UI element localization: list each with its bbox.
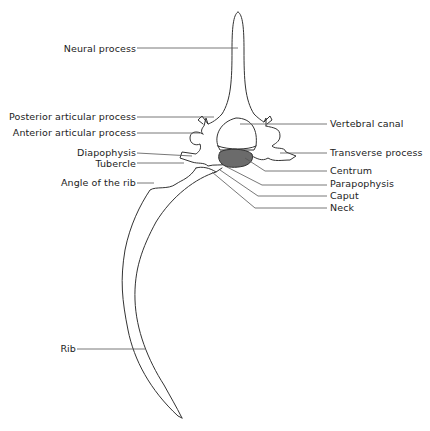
label-posterior-articular-process: Posterior articular process: [9, 111, 136, 122]
label-transverse-process: Transverse process: [330, 147, 423, 158]
label-angle-of-the-rib: Angle of the rib: [61, 177, 136, 188]
rib-outer-shape: [122, 168, 196, 418]
label-anterior-articular-process: Anterior articular process: [13, 127, 136, 138]
centrum-shape: [219, 149, 253, 167]
label-rib: Rib: [60, 343, 76, 354]
vertebral-canal-shape: [217, 118, 257, 149]
vertebra-rib-diagram: Neural process Posterior articular proce…: [0, 0, 430, 431]
label-centrum: Centrum: [330, 165, 372, 176]
label-caput: Caput: [330, 190, 359, 201]
leader-neck: [212, 172, 327, 208]
label-tubercle: Tubercle: [96, 158, 136, 169]
rib-inner-shape: [135, 172, 216, 418]
label-vertebral-canal: Vertebral canal: [330, 118, 404, 129]
label-diapophysis: Diapophysis: [77, 147, 136, 158]
label-parapophysis: Parapophysis: [330, 178, 394, 189]
leader-parapophysis: [225, 166, 327, 185]
leader-diapophysis: [137, 153, 192, 156]
label-neural-process: Neural process: [64, 43, 136, 54]
label-neck: Neck: [330, 202, 354, 213]
neural-process-shape: [201, 12, 238, 134]
diagram-drawing: [0, 0, 430, 431]
